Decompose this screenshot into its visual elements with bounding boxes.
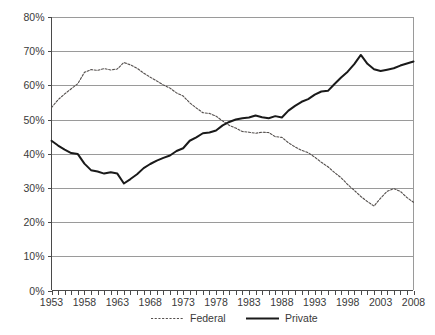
chart-legend: Federal Private xyxy=(151,312,318,324)
x-tick-label: 1973 xyxy=(171,296,195,308)
y-tick-label: 80% xyxy=(23,11,44,23)
x-tick-label: 1968 xyxy=(139,296,163,308)
line-chart: 0%10%20%30%40%50%60%70%80% 1953195819631… xyxy=(0,0,435,335)
legend-label-private: Private xyxy=(285,312,318,324)
x-tick-label: 1998 xyxy=(336,296,360,308)
x-tick-label: 1978 xyxy=(204,296,228,308)
x-tick-label: 1963 xyxy=(106,296,130,308)
x-axis-tick-marks xyxy=(53,291,415,295)
x-axis-tick-labels: 1953195819631968197319781983198819931998… xyxy=(40,296,426,308)
y-tick-label: 40% xyxy=(23,148,44,160)
y-tick-label: 50% xyxy=(23,114,44,126)
y-tick-label: 10% xyxy=(23,250,44,262)
y-tick-label: 30% xyxy=(23,182,44,194)
y-axis-tick-labels: 0%10%20%30%40%50%60%70%80% xyxy=(23,11,44,297)
x-tick-label: 1958 xyxy=(73,296,97,308)
y-tick-label: 70% xyxy=(23,45,44,57)
x-tick-label: 1988 xyxy=(270,296,294,308)
x-tick-label: 1953 xyxy=(40,296,64,308)
series-line-federal xyxy=(52,62,414,206)
y-axis-line-group xyxy=(48,17,52,292)
series-line-private xyxy=(52,55,414,184)
y-tick-label: 60% xyxy=(23,79,44,91)
gridlines-group xyxy=(52,18,414,257)
chart-container: 0%10%20%30%40%50%60%70%80% 1953195819631… xyxy=(0,0,435,335)
y-tick-label: 20% xyxy=(23,216,44,228)
x-tick-label: 2003 xyxy=(369,296,393,308)
x-tick-label: 1993 xyxy=(303,296,327,308)
x-tick-label: 2008 xyxy=(402,296,426,308)
x-axis-line-group xyxy=(52,291,415,295)
y-axis-tick-marks xyxy=(48,18,52,292)
x-tick-label: 1983 xyxy=(237,296,261,308)
legend-label-federal: Federal xyxy=(190,312,226,324)
